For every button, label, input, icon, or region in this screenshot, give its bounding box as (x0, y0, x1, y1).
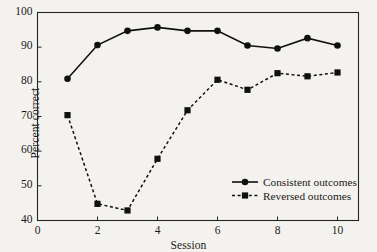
plot-area: Consistent outcomesReversed outcomes (0, 0, 377, 252)
data-point-marker (124, 207, 130, 213)
data-point-marker (154, 156, 160, 162)
series-1 (64, 24, 341, 82)
series-line (68, 27, 338, 78)
data-point-marker (244, 87, 250, 93)
data-point-marker (334, 69, 340, 75)
chart-figure: Percent correct Session 405060708090100 … (0, 0, 377, 252)
data-point-marker (214, 28, 221, 35)
data-point-marker (184, 107, 190, 113)
data-point-marker (184, 28, 191, 35)
data-point-marker (64, 75, 71, 82)
legend-marker-sample (242, 192, 248, 198)
data-point-marker (94, 42, 101, 49)
legend-label: Reversed outcomes (263, 190, 351, 202)
data-point-marker (124, 28, 131, 35)
legend-marker-sample (242, 179, 249, 186)
data-point-marker (244, 42, 251, 49)
data-point-marker (64, 112, 70, 118)
data-point-marker (94, 201, 100, 207)
data-point-marker (304, 35, 311, 42)
data-point-marker (214, 77, 220, 83)
data-point-marker (154, 24, 161, 31)
data-point-marker (274, 70, 280, 76)
data-point-marker (334, 42, 341, 49)
legend-label: Consistent outcomes (263, 176, 357, 188)
chart-legend: Consistent outcomesReversed outcomes (232, 176, 357, 202)
data-point-marker (274, 45, 281, 52)
data-point-marker (304, 73, 310, 79)
